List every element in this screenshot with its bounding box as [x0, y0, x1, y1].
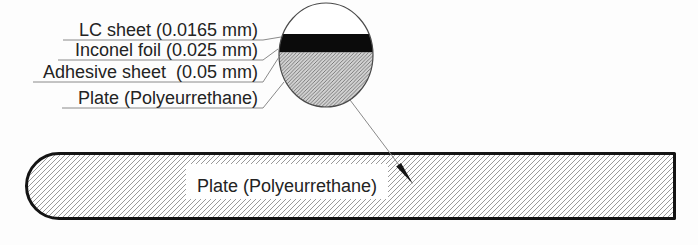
detail-foil-band: [278, 34, 374, 53]
detail-label-adhesive-sheet: Adhesive sheet (0.05 mm): [43, 62, 258, 82]
detail-label-plate: Plate (Polyeurrethane): [78, 88, 258, 108]
detail-hatched-plate-region: [278, 53, 374, 109]
layered-plate-diagram: Plate (Polyeurrethane) LC sheet (0.0165 …: [0, 0, 698, 245]
detail-label-lc-sheet: LC sheet (0.0165 mm): [79, 20, 258, 40]
plate-label: Plate (Polyeurrethane): [197, 176, 377, 196]
detail-label-inconel-foil: Inconel foil (0.025 mm): [75, 40, 258, 60]
